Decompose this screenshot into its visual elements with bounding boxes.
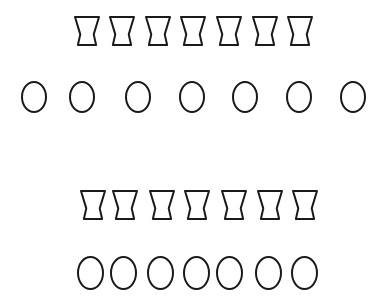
- hourglass-shape: [217, 17, 241, 45]
- hourglass-shape: [288, 17, 312, 45]
- hourglass-shape: [146, 17, 170, 45]
- hourglass-shape: [81, 191, 105, 219]
- circle-shape: [126, 82, 150, 112]
- hourglass-shape: [75, 17, 99, 45]
- hourglass-row: [81, 191, 317, 219]
- hourglass-shape: [181, 17, 205, 45]
- top-group: [22, 17, 365, 112]
- circle-shape: [148, 257, 173, 289]
- hourglass-shape: [150, 191, 174, 219]
- hourglass-row: [75, 17, 312, 45]
- hourglass-shape: [253, 17, 277, 45]
- circle-shape: [217, 257, 242, 289]
- hourglass-shape: [293, 191, 317, 219]
- circle-shape: [180, 82, 204, 112]
- circle-shape: [287, 82, 311, 112]
- circle-shape: [256, 257, 281, 289]
- circle-shape: [184, 257, 209, 289]
- hourglass-shape: [110, 17, 134, 45]
- bottom-group: [78, 191, 317, 289]
- circle-shape: [70, 82, 94, 112]
- circle-shape: [341, 82, 365, 112]
- circle-shape: [78, 257, 103, 289]
- hourglass-shape: [258, 191, 282, 219]
- hourglass-shape: [113, 191, 137, 219]
- diagram-canvas: [0, 0, 386, 304]
- hourglass-shape: [222, 191, 246, 219]
- circle-shape: [111, 257, 136, 289]
- circle-shape: [22, 82, 46, 112]
- circle-shape: [292, 257, 317, 289]
- circle-shape: [233, 82, 257, 112]
- shape-groups: [22, 17, 365, 289]
- hourglass-shape: [185, 191, 209, 219]
- circle-row: [78, 257, 317, 289]
- circle-row: [22, 82, 365, 112]
